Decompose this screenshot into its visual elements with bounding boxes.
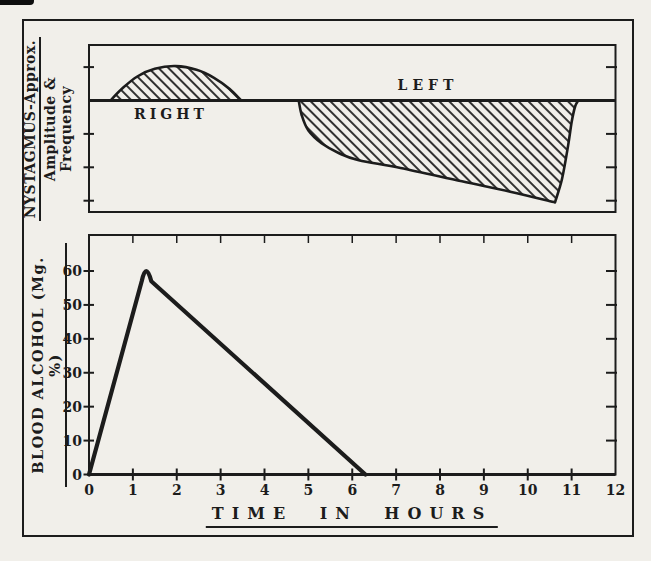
nystagmus-y-axis-label-line2: Amplitude & Frequency [41, 37, 74, 221]
y-tick-label: 40 [56, 331, 82, 347]
y-tick-label: 50 [56, 297, 82, 313]
x-tick-label: 8 [435, 482, 445, 498]
x-tick-label: 10 [518, 482, 537, 498]
figure-page: RIGHT LEFT NYSTAGMUS-Approx. Amplitude &… [0, 0, 651, 561]
x-tick-label: 3 [216, 482, 226, 498]
nystagmus-region-right [111, 66, 242, 100]
x-tick-label: 11 [562, 482, 581, 498]
x-tick-label: 1 [128, 482, 138, 498]
nystagmus-region-left [299, 101, 579, 203]
x-tick-label: 7 [391, 482, 401, 498]
x-tick-label: 5 [304, 482, 314, 498]
right-region-label: RIGHT [134, 106, 208, 122]
nystagmus-y-axis-label-line1: NYSTAGMUS-Approx. [22, 37, 41, 221]
x-tick-label: 9 [479, 482, 489, 498]
y-tick-label: 10 [56, 433, 82, 449]
blood-panel-frame [89, 235, 616, 475]
left-region-label: LEFT [398, 77, 459, 93]
blood-alcohol-curve [89, 271, 365, 475]
x-tick-label: 6 [347, 482, 357, 498]
y-tick-label: 60 [56, 263, 82, 279]
time-x-axis-label: TIME IN HOURS [206, 505, 498, 528]
y-tick-label: 30 [56, 365, 82, 381]
x-tick-label: 12 [606, 482, 625, 498]
y-tick-label: 20 [56, 399, 82, 415]
x-tick-label: 4 [260, 482, 270, 498]
x-tick-label: 0 [84, 482, 94, 498]
nystagmus-y-axis-label: NYSTAGMUS-Approx. Amplitude & Frequency [22, 37, 74, 221]
x-tick-label: 2 [172, 482, 182, 498]
charts-svg [0, 0, 651, 561]
y-tick-label: 0 [56, 467, 82, 483]
